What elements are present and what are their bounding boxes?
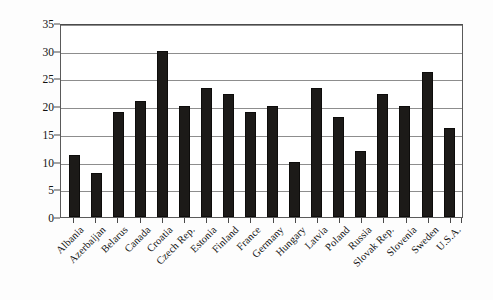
bar-slot (173, 25, 195, 217)
x-axis-tick-mark (361, 218, 362, 223)
bar-series (61, 25, 462, 217)
x-axis-tick-mark (461, 218, 462, 223)
x-axis-tick-mark (273, 218, 274, 223)
bar-slot (217, 25, 239, 217)
bar-slot (372, 25, 394, 217)
bar-slot (129, 25, 151, 217)
x-axis-tick-mark (295, 218, 296, 223)
x-axis-tick-mark (184, 218, 185, 223)
plot-area (60, 24, 463, 218)
bar-slot (262, 25, 284, 217)
x-axis-tick-mark (228, 218, 229, 223)
bar (135, 101, 146, 217)
bar (157, 51, 168, 217)
x-axis-tick-mark (383, 218, 384, 223)
bar (179, 106, 190, 217)
y-axis-tick-label: 20 (43, 101, 55, 113)
x-axis-tick-mark (428, 218, 429, 223)
bar-slot (284, 25, 306, 217)
bar (113, 112, 124, 217)
bar-slot (350, 25, 372, 217)
x-axis-tick-mark (206, 218, 207, 223)
x-axis-tick-mark (95, 218, 96, 223)
bar (444, 128, 455, 217)
x-axis-label-group: AlbaniaAzerbaijanBelarusCanadaCroatiaCze… (60, 224, 463, 300)
bar-slot (85, 25, 107, 217)
x-axis-tick-mark (339, 218, 340, 223)
x-axis-tick-mark (406, 218, 407, 223)
bar (399, 106, 410, 217)
bar-slot (107, 25, 129, 217)
bar (333, 117, 344, 217)
x-axis-tick-label: Poland (323, 224, 352, 253)
x-axis-tick-mark (450, 218, 451, 223)
bar-slot (328, 25, 350, 217)
y-axis-tick-label: 25 (43, 73, 55, 85)
x-axis-tick-mark (317, 218, 318, 223)
bar-slot (63, 25, 85, 217)
bar (91, 173, 102, 217)
bar (311, 88, 322, 217)
x-axis-tick-mark (250, 218, 251, 223)
x-axis-tick-mark (140, 218, 141, 223)
bar-slot (416, 25, 438, 217)
y-axis-tick-label: 35 (43, 18, 55, 30)
bar (377, 94, 388, 217)
bar (267, 106, 278, 217)
y-axis-tick-group: 05101520253035 (0, 0, 60, 300)
x-axis-tick-mark (73, 218, 74, 223)
bar (245, 112, 256, 217)
bar-slot (438, 25, 460, 217)
bar-slot (306, 25, 328, 217)
bar (69, 155, 80, 217)
y-axis-tick-label: 15 (43, 129, 55, 141)
bar-slot (195, 25, 217, 217)
bar (201, 88, 212, 217)
bar (355, 151, 366, 218)
x-axis-tick-mark (117, 218, 118, 223)
y-axis-tick-label: 30 (43, 46, 55, 58)
bar-slot (151, 25, 173, 217)
bar (289, 162, 300, 217)
bar-slot (394, 25, 416, 217)
bar-slot (240, 25, 262, 217)
bar (223, 94, 234, 217)
y-axis-tick-label: 10 (43, 157, 55, 169)
x-axis-tick-mark (162, 218, 163, 223)
bar-chart: G/GDP (percent) 05101520253035 AlbaniaAz… (0, 0, 493, 300)
bar (422, 72, 433, 217)
